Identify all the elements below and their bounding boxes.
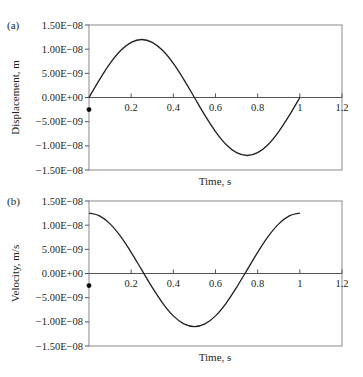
panel-label-a: (a) xyxy=(7,19,20,32)
x-tick-label: 1.2 xyxy=(335,102,348,113)
x-ticks-a: 0.20.40.60.811.2 xyxy=(125,94,349,113)
y-tick-label: −1.50E−08 xyxy=(36,165,83,176)
x-tick-label: 0.6 xyxy=(209,102,222,113)
x-ticks-b: 0.20.40.60.811.2 xyxy=(125,270,349,289)
y-tick-label: 1.50E−08 xyxy=(42,20,83,31)
y-axis-title-b: Velocity, m/s xyxy=(9,245,21,302)
origin-marker-a xyxy=(87,107,92,112)
velocity-curve xyxy=(89,213,300,327)
panel-label-b: (b) xyxy=(7,195,20,208)
x-tick-label: 0.4 xyxy=(167,278,181,289)
y-tick-label: 1.00E−08 xyxy=(42,220,83,231)
x-tick-label: 1.2 xyxy=(335,278,348,289)
panel-a: (a) 1.50E−081.00E−085.00E−090.00E+00−5.0… xyxy=(7,19,349,187)
origin-marker-b xyxy=(87,283,92,288)
x-axis-title-a: Time, s xyxy=(199,175,232,187)
y-tick-label: −1.00E−08 xyxy=(36,316,83,327)
y-tick-label: −1.00E−08 xyxy=(36,140,83,151)
x-tick-label: 0.6 xyxy=(209,278,222,289)
figure: (a) 1.50E−081.00E−085.00E−090.00E+00−5.0… xyxy=(0,0,363,377)
x-axis-title-b: Time, s xyxy=(199,351,232,363)
y-tick-label: 5.00E−09 xyxy=(42,68,83,79)
y-tick-label: −5.00E−09 xyxy=(36,116,83,127)
x-tick-label: 0.2 xyxy=(125,278,138,289)
x-tick-label: 1 xyxy=(297,278,302,289)
x-tick-label: 0.8 xyxy=(251,102,264,113)
x-tick-label: 0.2 xyxy=(125,102,138,113)
y-tick-label: −5.00E−09 xyxy=(36,292,83,303)
x-tick-label: 0.4 xyxy=(167,102,181,113)
y-tick-label: −1.50E−08 xyxy=(36,341,83,352)
panel-b: (b) 1.50E−081.00E−085.00E−090.00E+00−5.0… xyxy=(7,195,349,363)
y-tick-label: 1.00E−08 xyxy=(42,44,83,55)
y-tick-label: 5.00E−09 xyxy=(42,244,83,255)
y-tick-label: 0.00E+00 xyxy=(42,268,83,279)
y-ticks-a: 1.50E−081.00E−085.00E−090.00E+00−5.00E−0… xyxy=(36,20,89,176)
y-tick-label: 1.50E−08 xyxy=(42,196,83,207)
y-ticks-b: 1.50E−081.00E−085.00E−090.00E+00−5.00E−0… xyxy=(36,196,89,352)
x-tick-label: 0.8 xyxy=(251,278,264,289)
x-tick-label: 1 xyxy=(297,102,302,113)
y-tick-label: 0.00E+00 xyxy=(42,92,83,103)
y-axis-title-a: Displacement, m xyxy=(9,60,21,135)
